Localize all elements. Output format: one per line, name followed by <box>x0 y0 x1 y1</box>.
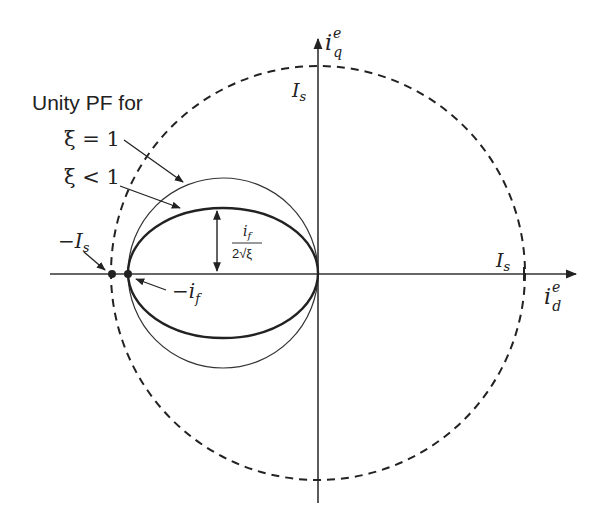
half-axis-numerator: if <box>243 223 253 241</box>
iq-axis-label: ieq <box>325 25 342 60</box>
half-axis-denominator: 2√ξ <box>232 246 252 261</box>
xi-lt-1-label: ξ < 1 <box>64 165 120 189</box>
is-right-label: Is <box>495 249 511 274</box>
unity-pf-circle <box>128 178 318 368</box>
neg-if-point <box>124 270 132 278</box>
unity-pf-ellipse <box>128 208 318 338</box>
neg-is-point <box>108 270 116 278</box>
is-top-label: Is <box>291 79 307 104</box>
neg-is-label: −Is <box>58 229 90 255</box>
id-axis-label: ied <box>544 279 561 314</box>
neg-if-label: −if <box>172 279 202 306</box>
xi-eq-1-label: ξ = 1 <box>64 127 120 151</box>
xilt1-pointer-arrow <box>120 186 180 208</box>
current-plane-diagram: Unity PF for ξ = 1 ξ < 1 −Is −if Is Is i… <box>0 0 602 525</box>
unity-pf-label: Unity PF for <box>32 91 143 114</box>
neg-if-pointer-arrow <box>136 279 166 290</box>
